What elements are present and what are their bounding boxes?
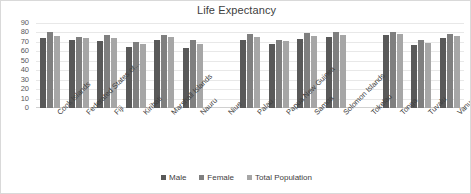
legend-item[interactable]: Female [199,173,234,182]
bar-total [283,41,289,108]
legend-item[interactable]: Male [161,173,186,182]
bar-group [407,23,436,108]
bar-female [47,32,53,108]
y-axis-tick-label: 70 [21,38,29,46]
x-axis-tick-label: Federated States of... [85,111,90,116]
chart-title: Life Expectancy [1,4,471,16]
y-axis-tick-label: 90 [21,19,29,27]
bar-female [133,42,139,108]
bar-total [54,36,60,108]
x-axis-tick-label: Tuvalu [427,111,432,116]
x-axis-tick-label: Samoa [313,111,318,116]
legend-item[interactable]: Total Population [247,173,312,182]
bar-group [236,23,265,108]
x-axis-tick-label: Niue [227,111,232,116]
legend-label: Female [207,173,234,182]
legend-swatch-icon [199,175,204,180]
x-axis-tick-label: Marshall Islands [170,111,175,116]
bar-total [425,43,431,108]
y-axis-tick-label: 30 [21,76,29,84]
bar-female [447,34,453,108]
x-axis-tick-label: Cook Islands [56,111,61,116]
y-axis-tick-label: 20 [21,85,29,93]
y-axis-tick-label: 0 [25,104,29,112]
y-axis-tick-label: 10 [21,95,29,103]
x-axis-tick-label: Nauru [199,111,204,116]
y-axis-tick-label: 80 [21,29,29,37]
y-axis-tick-label: 40 [21,66,29,74]
x-axis-tick-label: Kiribati [142,111,147,116]
legend-swatch-icon [247,175,252,180]
bar-total [340,35,346,108]
x-axis-tick-label: Papua New Guinea [285,111,290,116]
bar-female [418,40,424,108]
y-axis: 0102030405060708090 [1,23,33,108]
x-axis-tick-label: Tonga [399,111,404,116]
x-axis-tick-label: Palau [256,111,261,116]
bar-female [161,35,167,108]
x-axis-tick-label: Tokelau [370,111,375,116]
legend-swatch-icon [161,175,166,180]
y-axis-tick-label: 60 [21,48,29,56]
bar-group [264,23,293,108]
legend-label: Male [169,173,186,182]
legend-label: Total Population [255,173,312,182]
bar-total [83,38,89,108]
y-axis-tick-label: 50 [21,57,29,65]
x-axis-tick-label: Fiji [113,111,118,116]
bar-total [397,34,403,108]
bar-total [140,44,146,108]
bar-total [168,37,174,108]
x-axis-tick-label: Vanuatu [456,111,461,116]
bar-total [111,38,117,108]
chart-legend: MaleFemaleTotal Population [1,173,471,182]
x-axis-tick-label: Solomon Islands [342,111,347,116]
bar-male [240,40,246,108]
bar-total [311,36,317,108]
bar-group [36,23,65,108]
x-axis-labels: Cook IslandsFederated States of...FijiKi… [36,109,464,167]
bar-female [247,34,253,108]
chart-container: Life Expectancy 0102030405060708090 Cook… [0,0,471,194]
bar-total [454,36,460,108]
bar-female [276,40,282,108]
bar-male [40,38,46,108]
bar-total [254,37,260,108]
